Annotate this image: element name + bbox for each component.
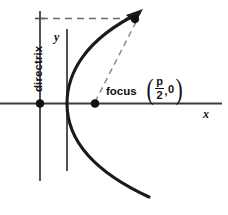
directrix-label: directrix bbox=[33, 46, 45, 92]
focus-point-marker bbox=[91, 99, 100, 108]
directrix-intersection-marker bbox=[36, 99, 45, 108]
fraction-denominator: 2 bbox=[156, 90, 162, 101]
y-axis-label: y bbox=[54, 31, 59, 43]
parabola-lower-branch bbox=[67, 104, 149, 198]
point-on-parabola-marker bbox=[131, 15, 139, 23]
x-axis-label: x bbox=[203, 108, 209, 120]
focus-coordinate: ( p 2 , 0 ) bbox=[145, 76, 184, 101]
parabola-diagram: directrix y x focus ( p 2 , 0 ) bbox=[0, 0, 228, 215]
left-paren: ( bbox=[146, 77, 153, 100]
right-paren: ) bbox=[176, 77, 183, 100]
focus-label: focus bbox=[106, 86, 137, 98]
fraction-numerator: p bbox=[156, 76, 163, 87]
coordinate-body: p 2 , 0 bbox=[155, 76, 174, 101]
coordinate-second-value: 0 bbox=[168, 83, 174, 95]
p-over-2-fraction: p 2 bbox=[155, 76, 164, 101]
diagram-canvas bbox=[0, 0, 228, 215]
